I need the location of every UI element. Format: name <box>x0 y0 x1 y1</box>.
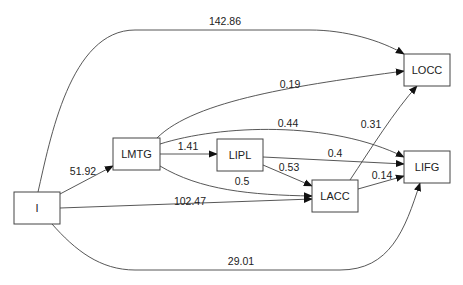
node-label: LOCC <box>412 64 443 76</box>
edge-LIPL-LACC: 0.53 <box>263 161 312 186</box>
edge-label: 51.92 <box>70 165 96 177</box>
edge-label: 102.47 <box>174 195 206 207</box>
edge-label: 0.19 <box>280 78 301 90</box>
edge-label: 0.31 <box>361 118 382 130</box>
node-LIPL[interactable]: LIPL <box>217 139 263 171</box>
node-label: LIFG <box>415 161 439 173</box>
node-label: LMTG <box>121 148 152 160</box>
node-I[interactable]: I <box>14 192 60 224</box>
edge-label: 0.53 <box>279 161 300 173</box>
node-label: I <box>35 202 38 214</box>
edge-label: 0.44 <box>278 117 299 129</box>
edge-label: 1.41 <box>178 140 199 152</box>
edge-LACC-LIFG: 0.14 <box>358 169 404 189</box>
edge-label: 142.86 <box>209 15 241 27</box>
edge-label: 0.14 <box>372 169 393 181</box>
edge-I-LIFG: 29.01 <box>52 183 420 270</box>
node-LMTG[interactable]: LMTG <box>113 138 160 170</box>
edge-I-LMTG: 51.92 <box>60 165 113 194</box>
graph-canvas: 142.86 51.92 102.47 29.01 0.19 0.44 1.41… <box>0 0 463 285</box>
node-LIFG[interactable]: LIFG <box>404 151 450 183</box>
node-LACC[interactable]: LACC <box>312 180 358 212</box>
edge-label: 0.5 <box>235 175 250 187</box>
edge-LMTG-LIPL: 1.41 <box>160 140 217 154</box>
node-LOCC[interactable]: LOCC <box>404 54 450 86</box>
node-label: LACC <box>320 190 349 202</box>
edge-label: 0.4 <box>328 147 343 159</box>
node-label: LIPL <box>229 149 252 161</box>
edge-label: 29.01 <box>228 255 254 267</box>
edge-I-LACC: 102.47 <box>60 195 312 208</box>
